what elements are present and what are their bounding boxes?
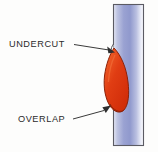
- overlap-leader-line: [73, 111, 104, 120]
- undercut-leader-line: [74, 45, 109, 51]
- weld-defect-diagram: UNDERCUT OVERLAP: [0, 0, 158, 152]
- undercut-label: UNDERCUT: [9, 39, 65, 49]
- overlap-arrowhead: [102, 106, 111, 113]
- overlap-label: OVERLAP: [18, 114, 65, 124]
- annotation-overlap: OVERLAP: [18, 106, 111, 124]
- diagram-canvas: UNDERCUT OVERLAP: [0, 0, 158, 152]
- annotation-undercut: UNDERCUT: [9, 39, 115, 53]
